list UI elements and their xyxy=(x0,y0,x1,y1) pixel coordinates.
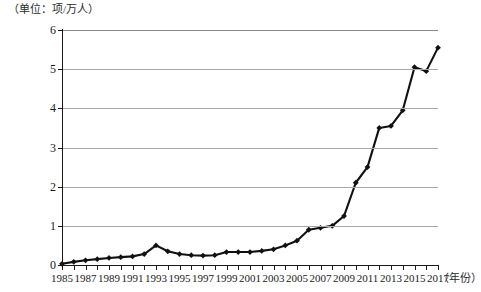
y-tick-label-1: 1 xyxy=(30,220,56,232)
x-tick-mark-2000 xyxy=(238,265,239,270)
data-point-1988 xyxy=(94,256,100,262)
x-tick-mark-2017 xyxy=(438,265,439,270)
y-tick-label-4: 4 xyxy=(30,102,56,114)
gridline-y-4 xyxy=(62,108,438,109)
x-axis-tick-marks xyxy=(62,265,439,271)
x-tick-mark-2016 xyxy=(426,265,427,270)
x-tick-mark-1999 xyxy=(227,265,228,270)
plot-area xyxy=(62,30,438,265)
x-tick-mark-1996 xyxy=(191,265,192,270)
x-tick-mark-1993 xyxy=(156,265,157,270)
x-tick-mark-2011 xyxy=(368,265,369,270)
x-tick-mark-2004 xyxy=(285,265,286,270)
gridline-y-1 xyxy=(62,226,438,227)
x-tick-mark-1998 xyxy=(215,265,216,270)
x-tick-mark-1989 xyxy=(109,265,110,270)
x-tick-mark-1995 xyxy=(180,265,181,270)
x-tick-mark-1994 xyxy=(168,265,169,270)
x-tick-mark-2001 xyxy=(250,265,251,270)
gridline-y-5 xyxy=(62,69,438,70)
x-tick-mark-1991 xyxy=(133,265,134,270)
y-tick-label-0: 0 xyxy=(30,259,56,271)
y-tick-label-6: 6 xyxy=(30,24,56,36)
gridline-y-2 xyxy=(62,187,438,188)
x-tick-mark-2009 xyxy=(344,265,345,270)
data-point-1999 xyxy=(224,249,230,255)
data-point-1987 xyxy=(83,257,89,263)
chart-figure: （单位：项/万人） 0123456 1985198719891991199319… xyxy=(0,0,481,292)
data-point-2012 xyxy=(376,125,382,131)
x-tick-mark-1990 xyxy=(121,265,122,270)
x-tick-mark-2002 xyxy=(262,265,263,270)
y-tick-label-2: 2 xyxy=(30,181,56,193)
data-point-2003 xyxy=(271,246,277,252)
x-tick-mark-2015 xyxy=(415,265,416,270)
y-tick-label-5: 5 xyxy=(30,63,56,75)
data-point-2004 xyxy=(282,243,288,249)
x-tick-mark-1986 xyxy=(74,265,75,270)
data-point-1991 xyxy=(130,253,136,259)
data-point-1998 xyxy=(212,252,218,258)
x-tick-mark-2005 xyxy=(297,265,298,270)
gridline-y-6 xyxy=(62,30,438,31)
x-axis-title: （年份） xyxy=(438,272,481,285)
x-tick-mark-2007 xyxy=(321,265,322,270)
data-point-1989 xyxy=(106,255,112,261)
y-tick-label-3: 3 xyxy=(30,142,56,154)
data-point-1986 xyxy=(71,259,77,265)
x-tick-mark-1992 xyxy=(144,265,145,270)
x-tick-mark-2012 xyxy=(379,265,380,270)
data-point-2000 xyxy=(235,249,241,255)
x-tick-mark-2006 xyxy=(309,265,310,270)
x-tick-mark-1985 xyxy=(62,265,63,270)
series-path xyxy=(62,48,438,264)
x-axis-tick-labels: 1985198719891991199319951997199920012003… xyxy=(0,272,481,290)
x-tick-mark-2013 xyxy=(391,265,392,270)
data-point-1990 xyxy=(118,254,124,260)
x-tick-mark-1997 xyxy=(203,265,204,270)
data-point-1995 xyxy=(177,251,183,257)
x-tick-mark-1987 xyxy=(86,265,87,270)
x-tick-mark-2014 xyxy=(403,265,404,270)
y-axis-line xyxy=(62,29,63,266)
gridline-y-3 xyxy=(62,148,438,149)
x-tick-mark-2003 xyxy=(274,265,275,270)
x-tick-mark-2010 xyxy=(356,265,357,270)
data-point-2002 xyxy=(259,248,265,254)
data-point-2001 xyxy=(247,249,253,255)
x-tick-mark-1988 xyxy=(97,265,98,270)
data-point-1996 xyxy=(188,252,194,258)
y-axis-tick-labels: 0123456 xyxy=(26,0,56,292)
data-point-1997 xyxy=(200,253,206,259)
x-tick-mark-2008 xyxy=(332,265,333,270)
